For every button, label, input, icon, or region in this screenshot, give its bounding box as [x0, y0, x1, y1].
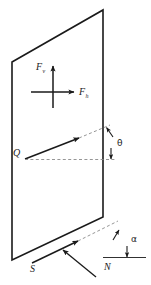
strike-extension-guide: [78, 221, 118, 241]
alpha-upper-arrow: [113, 230, 119, 240]
strike-label: S: [30, 264, 35, 274]
force-diagram-canvas: [0, 0, 151, 285]
north-direction-arrow: [63, 250, 96, 277]
vertical-force-symbol: F: [36, 61, 42, 72]
horizontal-force-label: Fh: [79, 87, 88, 97]
resultant-label: Q: [13, 148, 20, 158]
force-diagram-figure: Fv Fh Q θ α S N: [0, 0, 151, 285]
resultant-extension-guide: [79, 125, 110, 138]
theta-label: θ: [117, 139, 123, 148]
inclined-plane-polygon: [12, 10, 103, 260]
vertical-force-subscript: v: [43, 68, 46, 74]
alpha-label: α: [131, 235, 137, 244]
horizontal-force-symbol: F: [79, 86, 85, 97]
resultant-vector-arrow: [25, 138, 79, 159]
vertical-force-label: Fv: [36, 62, 45, 72]
horizontal-force-subscript: h: [86, 93, 89, 99]
north-label: N: [104, 262, 111, 272]
theta-upper-arrow: [107, 128, 114, 138]
strike-direction-arrow: [32, 241, 78, 263]
